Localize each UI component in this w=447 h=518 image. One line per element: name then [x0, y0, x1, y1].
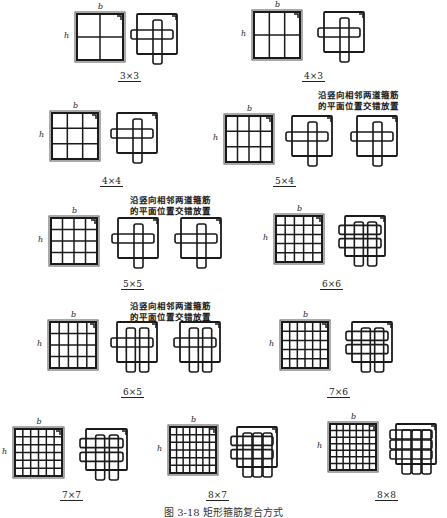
dim-b-3x3: b — [98, 2, 103, 11]
label-5x5: 5×5 — [121, 279, 144, 290]
label-7x6: 7×6 — [327, 387, 350, 398]
section-5x5 — [48, 215, 104, 271]
label-7x7: 7×7 — [60, 490, 83, 501]
dim-b-8x8: b — [351, 412, 356, 421]
dim-b-7x7: b — [37, 417, 42, 426]
stirrup-detail-6x5-2 — [168, 319, 230, 381]
section-5x4 — [223, 113, 279, 169]
stirrup-detail-5x4-2 — [345, 113, 407, 175]
section-4x3 — [251, 9, 307, 65]
dim-b-5x4: b — [247, 104, 252, 113]
dim-h-8x7: h — [157, 444, 162, 453]
stirrup-detail-7x6-1 — [340, 319, 402, 381]
stirrup-detail-3x3-1 — [125, 11, 187, 73]
dim-h-8x8: h — [317, 441, 322, 450]
stirrup-detail-7x7-1 — [74, 426, 137, 489]
dim-h-6x5: h — [37, 339, 42, 348]
dim-h-5x4: h — [213, 133, 218, 142]
dim-h-7x6: h — [269, 339, 274, 348]
stirrup-detail-8x8-1 — [384, 421, 446, 483]
dim-b-6x5: b — [71, 310, 76, 319]
label-4x3: 4×3 — [302, 71, 325, 82]
dim-b-5x5: b — [72, 206, 77, 215]
label-6x6: 6×6 — [320, 279, 343, 290]
dim-b-4x3: b — [275, 0, 280, 9]
section-6x5 — [47, 319, 103, 375]
label-8x7: 8×7 — [206, 490, 229, 501]
section-8x8 — [327, 421, 383, 477]
dim-h-5x5: h — [38, 235, 43, 244]
section-7x6 — [279, 319, 335, 375]
stirrup-detail-8x7-1 — [225, 424, 287, 486]
dim-h-4x4: h — [39, 130, 44, 139]
label-5x4: 5×4 — [273, 176, 296, 187]
label-8x8: 8×8 — [375, 490, 398, 501]
dim-h-4x3: h — [241, 29, 246, 38]
stirrup-detail-5x5-2 — [169, 215, 231, 277]
dim-h-7x7: h — [2, 447, 7, 456]
dim-b-8x7: b — [191, 415, 196, 424]
note-5x4: 沿竖向相邻两道箍筋 的平面位置交错放置 — [318, 90, 399, 112]
dim-b-6x6: b — [297, 204, 302, 213]
section-3x3 — [74, 11, 130, 67]
stirrup-detail-4x4-1 — [105, 110, 167, 172]
section-8x7 — [167, 424, 223, 480]
figure-caption: 图 3-18 矩形箍筋复合方式 — [0, 504, 447, 518]
stirrup-detail-6x6-1 — [333, 213, 395, 275]
dim-b-7x6: b — [303, 310, 308, 319]
dim-h-6x6: h — [263, 233, 268, 242]
stirrup-detail-4x3-1 — [312, 9, 374, 71]
section-4x4 — [49, 110, 105, 166]
note-5x5: 沿竖向相邻两道箍筋 的平面位置交错放置 — [130, 195, 211, 217]
label-4x4: 4×4 — [100, 176, 123, 187]
section-7x7 — [12, 426, 69, 483]
stirrup-detail-5x4-1 — [280, 113, 342, 175]
section-6x6 — [273, 213, 329, 269]
stirrup-detail-5x5-1 — [106, 215, 168, 277]
label-6x5: 6×5 — [121, 387, 144, 398]
dim-b-4x4: b — [73, 101, 78, 110]
stirrup-detail-6x5-1 — [105, 319, 167, 381]
dim-h-3x3: h — [64, 31, 69, 40]
